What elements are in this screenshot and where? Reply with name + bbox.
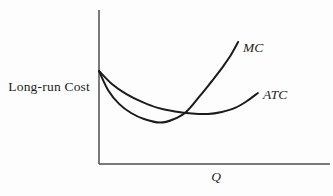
chart-canvas: MC ATC Long-run Cost Q	[0, 0, 333, 196]
long-run-cost-chart: MC ATC Long-run Cost Q	[0, 0, 333, 196]
x-axis-label: Q	[211, 169, 221, 184]
atc-curve-label: ATC	[262, 87, 288, 102]
y-axis-label: Long-run Cost	[8, 79, 90, 94]
mc-curve-label: MC	[242, 40, 264, 55]
